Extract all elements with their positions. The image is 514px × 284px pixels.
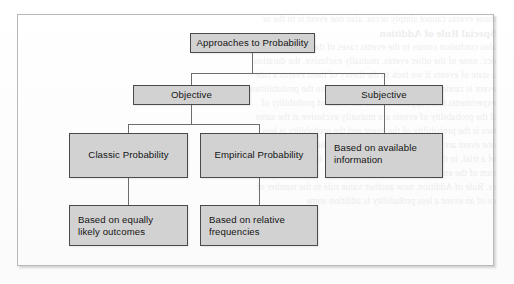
node-based-on-equally-likely-outcomes[interactable]: Based on equally likely outcomes bbox=[69, 205, 188, 246]
connector-to-subjective bbox=[384, 73, 385, 85]
node-label: Objective bbox=[171, 89, 212, 101]
node-label: Based on relative frequencies bbox=[209, 214, 285, 238]
node-label: Approaches to Probability bbox=[197, 37, 309, 49]
connector-to-classic bbox=[128, 124, 129, 133]
node-classic-probability[interactable]: Classic Probability bbox=[69, 133, 188, 178]
connector-root-bar bbox=[191, 73, 384, 74]
node-label: Classic Probability bbox=[88, 149, 168, 161]
node-label: Based on equally likely outcomes bbox=[78, 214, 153, 238]
node-based-on-relative-frequencies[interactable]: Based on relative frequencies bbox=[200, 205, 318, 246]
connector-subjective-to-child bbox=[384, 105, 385, 133]
screenshot-root: those events cannot simply occur. also o… bbox=[0, 0, 514, 284]
connector-objective-bar bbox=[128, 124, 260, 125]
node-label: Subjective bbox=[361, 89, 406, 101]
node-objective[interactable]: Objective bbox=[133, 85, 250, 105]
node-empirical-probability[interactable]: Empirical Probability bbox=[200, 133, 318, 178]
connector-empirical-to-child bbox=[259, 178, 260, 205]
connector-objective-down bbox=[191, 105, 192, 124]
connector-to-empirical bbox=[259, 124, 260, 133]
connector-to-objective bbox=[191, 73, 192, 85]
connector-classic-to-child bbox=[128, 178, 129, 205]
node-based-on-available-information[interactable]: Based on available information bbox=[325, 133, 443, 178]
node-label: Empirical Probability bbox=[214, 149, 303, 161]
node-label: Based on available information bbox=[334, 142, 417, 166]
node-subjective[interactable]: Subjective bbox=[325, 85, 443, 105]
node-approaches-to-probability[interactable]: Approaches to Probability bbox=[190, 33, 315, 53]
connector-root-down bbox=[252, 53, 253, 73]
